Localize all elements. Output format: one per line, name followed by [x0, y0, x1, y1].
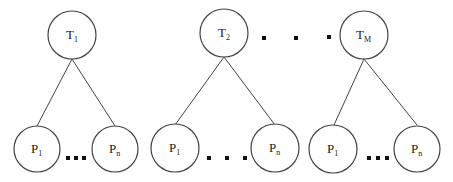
ellipsis-dots	[66, 156, 86, 160]
edge-t1-pn	[72, 59, 115, 126]
ellipsis-dots	[207, 156, 247, 160]
ellipsis-dots	[367, 156, 389, 160]
edge-t1-p1	[37, 59, 72, 126]
between-trees-ellipsis	[262, 35, 331, 40]
tree-diagram: T1 P1 Pn T2 P1 Pn T	[0, 0, 453, 182]
edge-t2-pn	[224, 57, 275, 125]
edge-tm-p1	[334, 59, 364, 125]
edge-tm-pn	[364, 59, 417, 125]
tree-1: T1 P1 Pn	[14, 11, 138, 172]
tree-2: T2 P1 Pn	[151, 9, 299, 172]
edge-t2-p1	[175, 57, 224, 125]
